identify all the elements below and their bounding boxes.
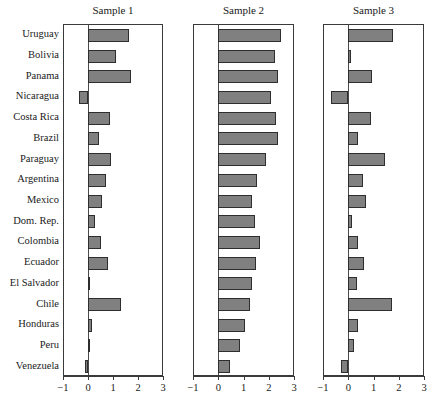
axis-tick-label: −1 bbox=[183, 382, 203, 393]
category-label: Mexico bbox=[0, 194, 59, 205]
axis-tick bbox=[163, 376, 164, 380]
axis-tick bbox=[323, 376, 324, 380]
axis-tick-label: 2 bbox=[259, 382, 279, 393]
bar bbox=[88, 112, 110, 125]
bar bbox=[88, 153, 111, 166]
bar bbox=[88, 132, 99, 145]
bar bbox=[218, 298, 250, 311]
category-label: Ecuador bbox=[0, 256, 59, 267]
axis-tick bbox=[269, 376, 270, 380]
axis-tick bbox=[138, 376, 139, 380]
category-label: Argentina bbox=[0, 173, 59, 184]
bar bbox=[88, 215, 95, 228]
axis-tick-label: 0 bbox=[338, 382, 358, 393]
bar bbox=[218, 29, 281, 42]
axis-tick-label: 2 bbox=[128, 382, 148, 393]
multi-panel-bar-chart-figure: UruguayBoliviaPanamaNicaraguaCosta RicaB… bbox=[0, 0, 434, 413]
axis-tick-label: 1 bbox=[234, 382, 254, 393]
axis-tick bbox=[88, 376, 89, 380]
axis-tick-label: 0 bbox=[208, 382, 228, 393]
category-label: Costa Rica bbox=[0, 111, 59, 122]
x-axis-sample-3: −10123 bbox=[323, 376, 424, 398]
axis-tick-label: 3 bbox=[153, 382, 173, 393]
bar bbox=[218, 195, 252, 208]
bar bbox=[218, 257, 256, 270]
bar bbox=[218, 112, 276, 125]
bar bbox=[88, 70, 131, 83]
bar bbox=[348, 339, 354, 352]
category-label: Brazil bbox=[0, 132, 59, 143]
bar bbox=[331, 91, 349, 104]
bar bbox=[341, 360, 349, 373]
axis-tick-label: 1 bbox=[364, 382, 384, 393]
category-label: Peru bbox=[0, 339, 59, 350]
panel-title-sample-1: Sample 1 bbox=[63, 4, 163, 16]
bar bbox=[88, 257, 108, 270]
bar bbox=[348, 153, 385, 166]
bar bbox=[88, 29, 129, 42]
bar bbox=[79, 91, 88, 104]
bar bbox=[348, 236, 358, 249]
category-label: Panama bbox=[0, 70, 59, 81]
axis-tick-label: 3 bbox=[414, 382, 434, 393]
category-label: Colombia bbox=[0, 235, 59, 246]
bar bbox=[348, 50, 351, 63]
category-label: Paraguay bbox=[0, 153, 59, 164]
axis-tick bbox=[374, 376, 375, 380]
bar bbox=[88, 195, 102, 208]
category-label: Venezuela bbox=[0, 360, 59, 371]
axis-tick bbox=[63, 376, 64, 380]
bar bbox=[348, 195, 366, 208]
panel-title-sample-2: Sample 2 bbox=[193, 4, 294, 16]
bar bbox=[218, 153, 266, 166]
axis-tick bbox=[113, 376, 114, 380]
category-label: Honduras bbox=[0, 318, 59, 329]
bar bbox=[88, 298, 121, 311]
bar bbox=[218, 70, 277, 83]
axis-tick bbox=[193, 376, 194, 380]
axis-tick-label: 1 bbox=[103, 382, 123, 393]
bar bbox=[88, 236, 101, 249]
x-axis-sample-2: −10123 bbox=[193, 376, 294, 398]
bar bbox=[88, 174, 106, 187]
axis-tick bbox=[348, 376, 349, 380]
panel-sample-3 bbox=[323, 24, 424, 376]
panel-sample-2 bbox=[193, 24, 294, 376]
axis-tick bbox=[218, 376, 219, 380]
bar bbox=[348, 257, 364, 270]
axis-tick bbox=[424, 376, 425, 380]
bar bbox=[218, 174, 257, 187]
bar bbox=[348, 174, 363, 187]
axis-tick bbox=[399, 376, 400, 380]
panel-sample-1 bbox=[63, 24, 163, 376]
bar bbox=[348, 70, 372, 83]
category-labels-column: UruguayBoliviaPanamaNicaraguaCosta RicaB… bbox=[0, 24, 59, 376]
axis-tick-label: 0 bbox=[78, 382, 98, 393]
bar bbox=[218, 319, 245, 332]
bar bbox=[88, 277, 90, 290]
bar bbox=[348, 277, 356, 290]
axis-tick-label: −1 bbox=[313, 382, 333, 393]
bar bbox=[218, 132, 277, 145]
category-label: Dom. Rep. bbox=[0, 215, 59, 226]
category-label: Bolivia bbox=[0, 49, 59, 60]
bar bbox=[348, 298, 391, 311]
x-axis-sample-1: −10123 bbox=[63, 376, 163, 398]
bar bbox=[348, 112, 371, 125]
bar bbox=[218, 236, 260, 249]
category-label: Nicaragua bbox=[0, 90, 59, 101]
bar bbox=[88, 50, 116, 63]
bar bbox=[218, 91, 271, 104]
bar bbox=[348, 215, 352, 228]
bar bbox=[218, 339, 239, 352]
bar bbox=[88, 339, 90, 352]
bar bbox=[348, 29, 393, 42]
bar bbox=[218, 360, 229, 373]
axis-tick-label: −1 bbox=[53, 382, 73, 393]
axis-tick bbox=[294, 376, 295, 380]
bar bbox=[218, 277, 252, 290]
panel-title-sample-3: Sample 3 bbox=[323, 4, 424, 16]
axis-tick bbox=[244, 376, 245, 380]
bar bbox=[85, 360, 88, 373]
bar bbox=[88, 319, 92, 332]
